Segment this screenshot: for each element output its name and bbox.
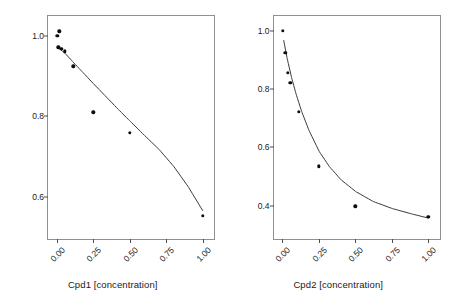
x-tick-label-right: 0.25 xyxy=(310,245,329,264)
x-tick-label-left: 0.25 xyxy=(85,245,104,264)
y-tick-mark-left xyxy=(44,36,48,37)
y-tick-mark-right xyxy=(270,30,274,31)
y-tick-mark-right xyxy=(270,205,274,206)
x-tick-label-right: 1.00 xyxy=(420,245,439,264)
y-tick-mark-right xyxy=(270,89,274,90)
plot-area-left: 1.00.80.60.000.250.500.751.00 xyxy=(47,15,215,240)
x-tick-label-right: 0.50 xyxy=(347,245,366,264)
x-tick-mark-left xyxy=(130,239,131,243)
y-tick-label-left: 1.0 xyxy=(32,31,44,41)
x-axis-title-left: Cpd1 [concentration] xyxy=(0,279,226,290)
x-tick-label-left: 0.75 xyxy=(158,245,177,264)
x-tick-label-right: 0.75 xyxy=(383,245,402,264)
data-point xyxy=(201,214,204,217)
x-tick-mark-right xyxy=(282,239,283,243)
data-point xyxy=(283,51,286,54)
x-tick-label-right: 0.00 xyxy=(274,245,293,264)
data-point xyxy=(63,50,66,53)
x-tick-label-left: 0.00 xyxy=(48,245,67,264)
data-point xyxy=(317,165,320,168)
y-tick-mark-left xyxy=(44,116,48,117)
data-point xyxy=(427,215,430,218)
x-tick-mark-right xyxy=(392,239,393,243)
data-point xyxy=(58,30,61,33)
x-tick-mark-left xyxy=(93,239,94,243)
x-tick-label-left: 0.50 xyxy=(121,245,140,264)
y-tick-label-right: 1.0 xyxy=(258,26,270,36)
x-tick-mark-right xyxy=(355,239,356,243)
y-tick-label-left: 0.6 xyxy=(32,192,44,202)
x-tick-mark-left xyxy=(57,239,58,243)
data-point xyxy=(56,34,59,37)
panel-cpd2: Mean normalized assay signal 1.00.80.60.… xyxy=(226,0,451,294)
y-tick-label-right: 0.6 xyxy=(258,142,270,152)
data-point xyxy=(71,65,74,68)
y-tick-mark-left xyxy=(44,196,48,197)
data-point xyxy=(286,71,289,74)
data-point xyxy=(281,29,284,32)
panel-cpd1: Mean normalized assay signal 1.00.80.60.… xyxy=(0,0,226,294)
y-tick-label-right: 0.8 xyxy=(258,84,270,94)
x-tick-mark-left xyxy=(166,239,167,243)
y-tick-label-right: 0.4 xyxy=(258,201,270,211)
data-point xyxy=(354,205,357,208)
x-tick-mark-right xyxy=(319,239,320,243)
data-point xyxy=(92,111,95,114)
data-point xyxy=(128,131,131,134)
x-tick-label-left: 1.00 xyxy=(194,245,213,264)
plot-area-right: 1.00.80.60.40.000.250.500.751.00 xyxy=(273,15,441,240)
x-tick-mark-left xyxy=(203,239,204,243)
y-tick-label-left: 0.8 xyxy=(32,111,44,121)
fit-curve-left xyxy=(48,16,216,241)
y-tick-mark-right xyxy=(270,147,274,148)
data-point xyxy=(297,110,300,113)
x-axis-title-right: Cpd2 [concentration] xyxy=(226,279,451,290)
figure-two-panel-dose-response: Mean normalized assay signal 1.00.80.60.… xyxy=(0,0,451,294)
fit-curve-right xyxy=(274,16,442,241)
data-point xyxy=(289,81,292,84)
x-tick-mark-right xyxy=(428,239,429,243)
